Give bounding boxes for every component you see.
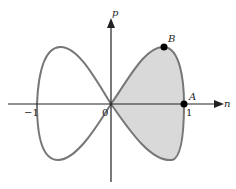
x-axis-label: n — [224, 99, 230, 109]
tick-neg-one: −1 — [24, 108, 39, 118]
curve-diagram — [0, 0, 236, 189]
x-axis-arrow-icon — [214, 100, 224, 108]
tick-one: 1 — [186, 108, 192, 118]
point-b — [161, 44, 168, 51]
y-axis-arrow-icon — [107, 18, 115, 28]
figure: p n −1 0 1 B A — [0, 0, 236, 189]
tick-zero: 0 — [102, 108, 108, 118]
point-b-label: B — [168, 34, 175, 44]
y-axis-label: p — [112, 8, 118, 18]
point-a-label: A — [189, 92, 196, 102]
